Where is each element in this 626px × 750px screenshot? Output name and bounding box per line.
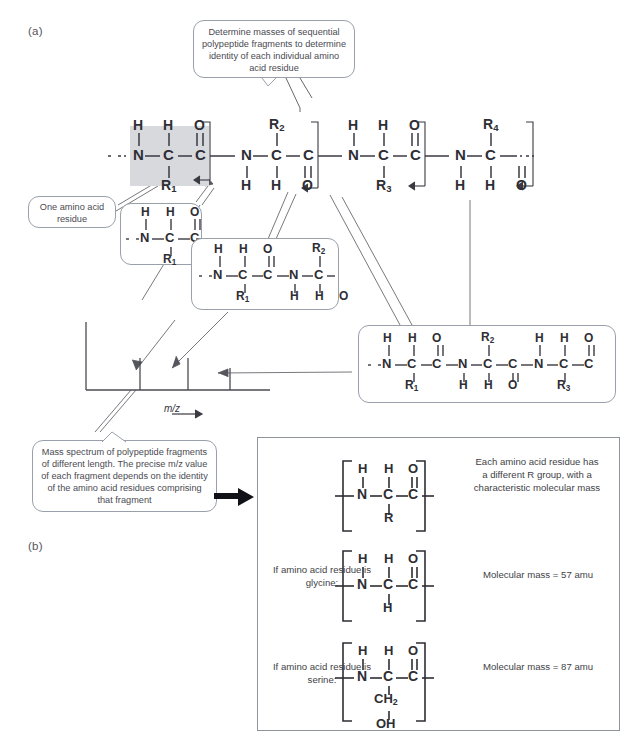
panel-b-serine-atom-C: C xyxy=(383,669,393,683)
chain-atom-H-N1: H xyxy=(133,118,143,132)
panel-b-serine-atom-H-N: H xyxy=(358,644,367,657)
frag2-atom-H-N2: H xyxy=(290,290,299,302)
frag3-atom-O3: O xyxy=(584,332,593,344)
arrow-to-panel-b xyxy=(214,486,262,508)
frag1-atom-O: O xyxy=(190,206,199,218)
chain-atom-O4: O xyxy=(516,178,527,192)
panel-b-generic-atom-N: N xyxy=(357,487,367,501)
callout-mass-spectrum-tail xyxy=(100,430,170,446)
panel-b-generic-description: Each amino acid residue has a different … xyxy=(472,455,602,494)
chain-sidechain-R2: R2 xyxy=(269,117,284,133)
frag3-sidechain-R1: R1 xyxy=(405,379,418,393)
panel-b-glycine-atom-N: N xyxy=(357,577,367,591)
panel-b-label: (b) xyxy=(28,540,43,552)
frag3-atom-N3: N xyxy=(534,357,543,370)
frag3-atom-H-N2: H xyxy=(459,379,468,391)
frag3-sidechain-R2: R2 xyxy=(481,331,494,345)
panel-b-generic-atom-C: C xyxy=(383,487,393,501)
frag2-atom-C2: C xyxy=(314,268,323,281)
chain-atom-H-C4: H xyxy=(485,178,495,192)
panel-b-serine-atom-Cprime: C xyxy=(408,669,418,683)
panel-b-generic-atom-H-N: H xyxy=(358,462,367,475)
frag1-atom-H-C: H xyxy=(166,206,175,218)
panel-b-glycine-sidechain: H xyxy=(383,601,392,614)
panel-b-generic-atom-O: O xyxy=(408,462,418,475)
panel-b-serine-atom-N: N xyxy=(357,669,367,683)
panel-b-serine-atom-H-C: H xyxy=(384,644,393,657)
frag1-atom-H-N: H xyxy=(141,206,150,218)
frag3-atom-N2: N xyxy=(458,357,467,370)
frag1-sidechain-R1: R1 xyxy=(163,253,176,267)
frag3-sidechain-R3: R3 xyxy=(557,379,570,393)
frag2-atom-H-N1: H xyxy=(214,243,223,255)
panel-b-serine-mass: Molecular mass = 87 amu xyxy=(478,660,598,673)
frag2-sidechain-R2: R2 xyxy=(312,242,325,256)
frag1-atom-C: C xyxy=(165,231,174,244)
panel-b-serine-atom-O: O xyxy=(408,644,418,657)
chain-atom-C1prime: C xyxy=(195,147,206,162)
chain-atom-H-C1: H xyxy=(163,118,173,132)
panel-b-glycine-atom-H-N: H xyxy=(358,552,367,565)
callout-mass-spectrum: Mass spectrum of polypeptide fragments o… xyxy=(32,440,217,512)
chain-sidechain-R4: R4 xyxy=(483,117,498,133)
chain-atom-N3: N xyxy=(348,147,359,162)
frag2-sidechain-R1: R1 xyxy=(236,290,249,304)
mass-spectrum-plot xyxy=(60,318,280,400)
chain-sidechain-R3: R3 xyxy=(376,178,391,194)
chain-atom-H-C3: H xyxy=(378,118,388,132)
chain-atom-C3prime: C xyxy=(410,147,421,162)
frag2-atom-H-C2: H xyxy=(315,290,324,302)
frag3-atom-H-C3: H xyxy=(560,332,569,344)
frag2-atom-C1prime: C xyxy=(263,268,272,281)
frag3-atom-C1: C xyxy=(407,357,416,370)
frag3-atom-C3: C xyxy=(559,357,568,370)
chain-atom-O1: O xyxy=(194,118,205,132)
mz-axis-label: m/z xyxy=(164,403,180,414)
chain-atom-N1: N xyxy=(133,147,144,162)
panel-b-glycine-atom-H-C: H xyxy=(384,552,393,565)
panel-b-glycine-mass: Molecular mass = 57 amu xyxy=(478,568,598,581)
frag3-atom-C3prime: C xyxy=(584,357,593,370)
panel-b-serine-sidechain-ch2: CH2 xyxy=(374,692,398,707)
frag3-atom-O1: O xyxy=(432,332,441,344)
frag2-atom-N1: N xyxy=(213,268,222,281)
frag3-atom-C2prime: C xyxy=(508,357,517,370)
frag3-atom-H-N3: H xyxy=(535,332,544,344)
panel-b-glycine-atom-C: C xyxy=(383,577,393,591)
chain-atom-C3: C xyxy=(378,147,389,162)
frag3-atom-H-C2: H xyxy=(484,379,493,391)
chain-atom-O3: O xyxy=(409,118,420,132)
chain-atom-N4: N xyxy=(455,147,466,162)
chain-atom-N2: N xyxy=(241,147,252,162)
chain-atom-C2prime: C xyxy=(303,147,314,162)
panel-b-generic-sidechain-R: R xyxy=(384,511,393,524)
frag2-atom-N2: N xyxy=(289,268,298,281)
figure-root: (a) Determine masses of sequential polyp… xyxy=(0,0,626,750)
chain-atom-H-N2: H xyxy=(241,178,251,192)
frag3-atom-H-C1: H xyxy=(408,332,417,344)
chain-atom-H-C2: H xyxy=(271,178,281,192)
frag3-atom-O2: O xyxy=(508,379,517,391)
frag2-atom-O1: O xyxy=(263,243,272,255)
panel-b-glycine-atom-O: O xyxy=(408,552,418,565)
frag3-atom-N1: N xyxy=(382,357,391,370)
chain-atom-H-N4: H xyxy=(455,178,465,192)
callout-one-residue: One amino acid residue xyxy=(28,196,116,228)
frag2-atom-O2: O xyxy=(339,290,348,302)
chain-sidechain-R1: R1 xyxy=(161,178,176,194)
frag1-atom-N: N xyxy=(140,231,149,244)
panel-b-generic-atom-Cprime: C xyxy=(408,487,418,501)
panel-b-glycine-atom-Cprime: C xyxy=(408,577,418,591)
chain-atom-C1: C xyxy=(163,147,174,162)
chain-atom-H-N3: H xyxy=(348,118,358,132)
chain-atom-C4: C xyxy=(485,147,496,162)
panel-b-generic-atom-H-C: H xyxy=(384,462,393,475)
frag3-atom-C2: C xyxy=(483,357,492,370)
chain-atom-C2: C xyxy=(271,147,282,162)
panel-b-serine-sidechain-oh: OH xyxy=(376,717,396,730)
frag3-atom-H-N1: H xyxy=(383,332,392,344)
frag3-atom-C1prime: C xyxy=(432,357,441,370)
frag2-atom-C1: C xyxy=(238,268,247,281)
frag2-atom-H-C1: H xyxy=(239,243,248,255)
chain-atom-O2: O xyxy=(302,178,313,192)
